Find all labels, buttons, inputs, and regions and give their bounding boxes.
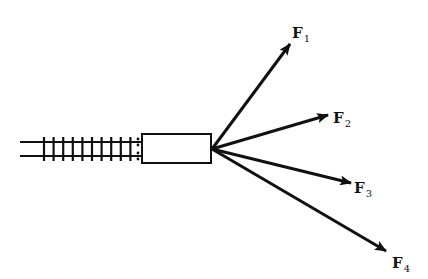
force-label: F1 <box>292 24 310 44</box>
force-arrow <box>212 44 290 149</box>
coupler-dot <box>137 144 140 147</box>
force-vectors: F1F2F3F4 <box>212 24 410 274</box>
force-f2: F2 <box>212 109 351 149</box>
force-f3: F3 <box>212 149 372 199</box>
force-f1: F1 <box>212 24 310 149</box>
force-label: F2 <box>333 109 351 129</box>
coupler-dot <box>137 158 140 161</box>
force-arrow <box>212 149 351 183</box>
coupler-dot <box>137 138 140 141</box>
force-arrow <box>212 149 386 251</box>
coupler-dot <box>137 152 140 155</box>
force-label: F3 <box>354 179 372 199</box>
force-f4: F4 <box>212 149 410 274</box>
rail-track <box>20 137 142 161</box>
force-arrow <box>212 115 328 149</box>
force-diagram: F1F2F3F4 <box>0 0 428 279</box>
force-label: F4 <box>392 254 410 274</box>
car-box <box>142 134 211 163</box>
